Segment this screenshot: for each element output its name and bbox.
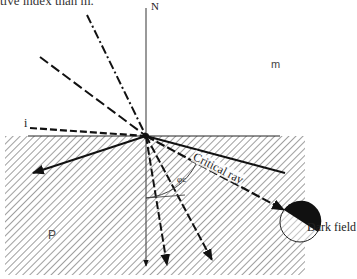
incident-label: i bbox=[24, 117, 27, 129]
dark-field-label: Dark field bbox=[307, 221, 356, 233]
caption-text: tive index than m. bbox=[0, 0, 94, 7]
incident-ray-dashdot bbox=[87, 15, 146, 136]
incident-ray-longdash bbox=[40, 57, 146, 136]
lower-medium-label: P bbox=[48, 229, 56, 241]
upper-medium-label: m bbox=[271, 59, 280, 70]
lower-medium-hatch bbox=[5, 136, 305, 275]
refraction-diagram: tive index than m. N m i P Critical ray … bbox=[0, 0, 357, 279]
incident-ray-grazing bbox=[30, 128, 146, 136]
normal-label: N bbox=[151, 1, 159, 12]
critical-angle-label: φc bbox=[177, 175, 186, 184]
